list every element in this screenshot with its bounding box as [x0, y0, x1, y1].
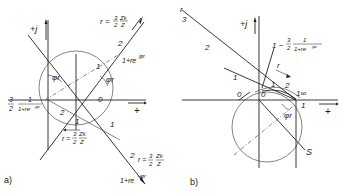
- label-r-mid-a: r = 3 2 Zk Z: [62, 129, 87, 146]
- svg-text:1+re: 1+re: [294, 46, 307, 52]
- svg-text:jφr: jφr: [34, 104, 40, 109]
- svg-text:1: 1: [28, 96, 32, 103]
- arrow-head-icon: [45, 19, 48, 24]
- label-r-top-a: r = 3 2 Zk Z: [100, 15, 128, 28]
- svg-text:3: 3: [114, 15, 118, 21]
- svg-text:Z: Z: [79, 139, 84, 145]
- svg-text:Z: Z: [156, 161, 161, 167]
- label-expr-b: 1 − 3 2 1 1+re jφr: [272, 37, 322, 52]
- tick-lower-2: 2: [129, 151, 135, 160]
- tick-mid-1: 1: [75, 117, 79, 126]
- angle-label-a1: φr: [52, 73, 60, 82]
- tick-arc-inf-b: 1∞: [296, 89, 306, 98]
- caption-b: b): [190, 177, 198, 187]
- svg-text:1+re: 1+re: [18, 106, 31, 112]
- tick-upper-1: 1: [96, 62, 100, 71]
- imag-axis-label-b: +j: [240, 19, 248, 29]
- svg-text:2: 2: [286, 45, 291, 51]
- diagram-canvas: + +j φr φr 2 1 0 2 1 1 2 r = 3: [0, 0, 345, 196]
- circle-b: [232, 92, 302, 162]
- svg-text:jφr: jφr: [311, 44, 317, 49]
- svg-text:Zk: Zk: [119, 15, 128, 21]
- tick-lower-1: 1: [110, 120, 114, 129]
- figure-b: + +j φr r 3 2 1 0 0 1 2: [180, 5, 339, 187]
- label-phasor-minus: 1+re −jφr: [120, 173, 146, 184]
- svg-text:3: 3: [9, 96, 13, 103]
- svg-text:2: 2: [8, 105, 13, 112]
- caption-a: a): [4, 175, 12, 185]
- tick-real-1-b: 1: [301, 101, 305, 110]
- point-s-b: S: [306, 147, 312, 157]
- tick-1-b: 1: [233, 73, 237, 82]
- line-r-b: [182, 10, 296, 100]
- svg-text:2: 2: [148, 161, 153, 167]
- svg-text:jφr: jφr: [138, 53, 145, 59]
- svg-text:3: 3: [73, 131, 77, 137]
- svg-text:1+re: 1+re: [120, 177, 134, 184]
- svg-text:3: 3: [149, 153, 153, 159]
- tick-0-left-b: 0: [237, 90, 242, 99]
- angle-label-a2: φr: [106, 75, 114, 84]
- arrow-head-icon: [286, 74, 291, 78]
- tick-arc-2-b: 2: [284, 81, 290, 90]
- svg-text:1+re: 1+re: [122, 57, 136, 64]
- label-r-arrow-b: r: [277, 61, 280, 70]
- tick-3-b: 3: [182, 15, 187, 24]
- tick-0-origin-b: 0: [261, 90, 266, 99]
- angle-arc-b: [282, 104, 290, 110]
- svg-text:r =: r =: [138, 156, 146, 163]
- arrow-head-icon: [254, 17, 257, 22]
- tick-zero-a: 0: [98, 95, 103, 104]
- svg-text:3: 3: [287, 37, 291, 43]
- label-r-top-b: r: [180, 5, 183, 14]
- svg-text:Zk: Zk: [155, 153, 164, 159]
- tick-upper-2: 2: [117, 39, 123, 48]
- svg-text:2: 2: [113, 22, 118, 28]
- svg-text:1: 1: [303, 37, 306, 43]
- tick-2-b: 2: [204, 43, 210, 52]
- svg-text:2: 2: [72, 139, 77, 145]
- svg-text:1 −: 1 −: [272, 41, 284, 50]
- tick-mid-2: 2: [59, 108, 65, 117]
- svg-text:Zk: Zk: [78, 131, 87, 137]
- tick-arc-1-b: 1: [271, 80, 275, 89]
- figure-a: + +j φr φr 2 1 0 2 1 1 2 r = 3: [4, 15, 164, 185]
- line-plus-a: [40, 22, 144, 160]
- label-phasor-plus: 1+re jφr: [122, 53, 145, 64]
- real-axis-label-a: +: [134, 105, 140, 116]
- arrow-head-icon: [144, 102, 147, 105]
- angle-label-b: φr: [284, 111, 292, 120]
- imag-axis-label-a: +j: [30, 24, 38, 34]
- label-left-expr-a: 3 2 1 1+re jφr: [8, 96, 42, 112]
- svg-text:r =: r =: [100, 17, 110, 26]
- line-s-b: [259, 100, 305, 150]
- real-axis-label-b: +: [325, 106, 331, 117]
- svg-text:r =: r =: [62, 135, 70, 142]
- label-r-bottom-a: r = 3 2 Zk Z: [138, 153, 164, 167]
- svg-text:Z: Z: [120, 22, 125, 28]
- svg-text:−jφr: −jφr: [137, 173, 146, 179]
- arrow-head-icon: [336, 103, 339, 106]
